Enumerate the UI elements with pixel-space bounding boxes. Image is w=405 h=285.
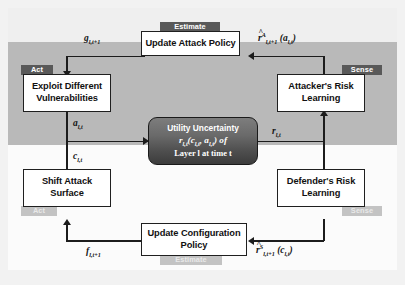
box-attacker-risk-line1: Attacker's Risk [288,81,353,91]
diagram-canvas: Estimate Act Sense Act Sense Estimate Up… [0,0,405,285]
badge-act-shift-surface: Act [21,206,57,216]
box-defender-risk-line1: Defender's Risk [287,176,355,186]
box-shift-attack-surface-label: Shift Attack Surface [42,176,92,200]
arrowhead-into-configpolicy [248,237,254,245]
label-rhatA-arg: (a [280,33,288,43]
label-rhatA-sub: l,t+1 [266,38,278,45]
utility-node-line3: Layer l at time t [174,148,232,159]
box-config-line1: Update Configuration [147,228,240,238]
line-right-up-to-attackerrisk [323,112,325,141]
label-rhatS-arg-end: ) [290,245,293,255]
box-exploit-vulnerabilities[interactable]: Exploit Different Vulnerabilities [23,74,111,112]
utility-arg-open: (c [188,135,195,145]
label-config-policy-output: fl,t+1 [86,246,101,258]
utility-node-line2: rl,t(cl,t, al,t) of [179,134,227,148]
label-rhatA-base: r [258,33,262,43]
badge-sense-defender-risk: Sense [342,206,382,216]
label-defender-reward-estimate: rSl,t+1 (cl,t) [256,243,293,257]
box-attacker-risk-learning[interactable]: Attacker's Risk Learning [277,74,365,112]
box-attacker-risk-line2: Learning [302,93,340,103]
box-defender-risk-learning-label: Defender's Risk Learning [287,176,355,200]
box-exploit-line2: Vulnerabilities [36,93,98,103]
label-a-sub: l,t [78,123,83,130]
box-config-line2: Policy [181,240,208,250]
label-g-sub: l,t+1 [89,38,101,45]
box-exploit-line1: Exploit Different [32,81,102,91]
arrowhead-into-shift-bottom [63,219,71,225]
label-r-sub: l,t [276,131,281,138]
box-update-configuration-policy[interactable]: Update Configuration Policy [141,223,247,256]
box-exploit-vulnerabilities-label: Exploit Different Vulnerabilities [32,81,102,105]
line-to-configpolicy [253,240,324,242]
label-rhatS-sub: l,t+1 [263,250,275,257]
line-attackpolicy-to-left [66,56,145,58]
box-shift-attack-surface[interactable]: Shift Attack Surface [23,169,111,207]
box-attacker-risk-learning-label: Attacker's Risk Learning [288,81,353,105]
box-defender-risk-learning[interactable]: Defender's Risk Learning [277,169,365,207]
line-attackerrisk-up [323,56,325,76]
label-c-sub: l,t [77,156,82,163]
label-utility-reward: rl,t [272,126,281,138]
label-attack-action: al,t [73,118,83,130]
utility-arg-mid: , a [200,135,209,145]
label-rhatS-base: r [256,245,260,255]
line-to-attackpolicy [253,56,324,58]
badge-estimate-config-policy: Estimate [160,255,222,265]
label-attacker-reward-estimate: rAl,t+1 (al,t) [258,31,296,45]
utility-node-line1: Utility Uncertainty [167,123,239,134]
box-update-configuration-policy-label: Update Configuration Policy [147,228,240,252]
label-rhatS-arg: (c [277,245,284,255]
line-action-to-utility [66,141,148,143]
box-update-attack-policy[interactable]: Update Attack Policy [141,31,240,56]
utility-arg-close: ) of [214,135,227,145]
label-rhatA-arg-end: ) [293,33,296,43]
line-utility-to-right [258,141,324,143]
label-attack-policy-output: gl,t+1 [84,33,100,45]
line-defenderrisk-down [323,219,325,241]
box-shift-line1: Shift Attack [42,176,92,186]
box-shift-line2: Surface [50,188,83,198]
node-utility-uncertainty[interactable]: Utility Uncertainty rl,t(cl,t, al,t) of … [148,117,258,165]
label-config-action: cl,t [73,151,82,163]
box-update-attack-policy-label: Update Attack Policy [145,38,235,50]
arrowhead-into-attackpolicy [248,52,254,60]
box-defender-risk-line2: Learning [302,188,340,198]
line-configpolicy-to-left [66,240,145,242]
label-f-sub: l,t+1 [89,251,101,258]
